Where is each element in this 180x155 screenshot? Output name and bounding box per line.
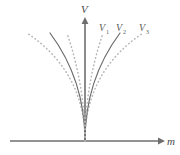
curve-label-v3: V 3: [139, 22, 149, 35]
m-axis-arrow-icon: [158, 138, 165, 145]
potential-curves-figure: V m V 1 V 2 V 3: [0, 0, 180, 155]
curve-v3-right-branch: [85, 33, 143, 141]
curve-v1-left-branch: [67, 33, 85, 141]
curve-label-v3-subscript: 3: [146, 29, 149, 35]
curve-v3-left-branch: [27, 33, 85, 141]
v-axis-label: V: [81, 3, 89, 15]
m-axis-label: m: [167, 135, 175, 147]
figure-container: V m V 1 V 2 V 3: [0, 0, 180, 155]
curve-label-v2-subscript: 2: [123, 29, 126, 35]
v-axis-arrow-icon: [82, 17, 89, 24]
curve-label-v1: V 1: [99, 22, 109, 35]
curve-v2-left-branch: [50, 33, 85, 141]
curve-v2-right-branch: [85, 33, 120, 141]
curve-v1-right-branch: [85, 33, 103, 141]
curve-label-v1-subscript: 1: [106, 29, 109, 35]
m-axis-group: [10, 138, 165, 145]
curve-label-v2: V 2: [116, 22, 126, 35]
